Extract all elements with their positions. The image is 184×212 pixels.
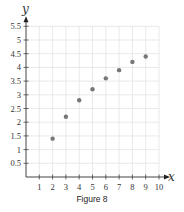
y-tick-label: 2.5 — [10, 104, 21, 114]
data-point — [130, 60, 134, 64]
data-point — [144, 54, 148, 58]
figure-caption: Figure 8 — [0, 194, 184, 204]
y-tick-label: 1.5 — [10, 131, 21, 141]
x-tick-label: 10 — [155, 182, 164, 192]
data-point — [104, 76, 108, 80]
data-point — [90, 87, 94, 91]
y-tick-label: 5.5 — [10, 21, 21, 31]
data-point — [117, 68, 121, 72]
x-tick-label: 3 — [64, 182, 68, 192]
y-axis-arrow-icon — [24, 16, 29, 22]
data-point — [64, 115, 68, 119]
axes — [24, 16, 171, 179]
data-point — [77, 98, 81, 102]
data-point — [50, 136, 54, 140]
x-tick-label: 8 — [130, 182, 134, 192]
x-tick-label: 6 — [104, 182, 108, 192]
y-tick-label: 0.5 — [10, 158, 21, 168]
x-tick-label: 4 — [77, 182, 82, 192]
x-tick-label: 5 — [90, 182, 94, 192]
grid-lines — [26, 26, 159, 177]
x-tick-label: 2 — [50, 182, 54, 192]
x-tick-label: 7 — [117, 182, 121, 192]
y-tick-label: 2 — [17, 117, 21, 127]
x-tick-label: 1 — [37, 182, 41, 192]
y-tick-label: 5 — [17, 35, 21, 45]
y-tick-label: 3.5 — [10, 76, 21, 86]
x-axis-label: x — [168, 170, 175, 184]
scatter-chart: 12345678910 0.511.522.533.544.555.5 x y — [0, 0, 184, 212]
y-tick-label: 4.5 — [10, 49, 21, 59]
x-tick-label: 9 — [144, 182, 148, 192]
y-tick-label: 1 — [17, 145, 21, 155]
y-tick-label: 4 — [17, 62, 22, 72]
y-axis-label: y — [21, 2, 29, 16]
y-tick-label: 3 — [17, 90, 21, 100]
